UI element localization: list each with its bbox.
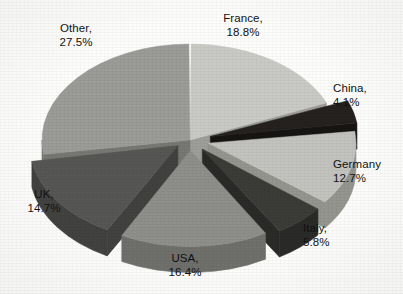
pie-label-name: Germany: [333, 158, 381, 172]
pie-label-value: 16.4%: [125, 266, 245, 280]
pie-label-name: France,: [183, 12, 303, 26]
pie-label-other: Other,27.5%: [16, 22, 136, 49]
pie-chart: France,18.8%China,4.1%Germany12.7%Italy,…: [0, 0, 403, 294]
pie-label-uk: UK,14.7%: [0, 188, 104, 215]
pie-label-value: 14.7%: [0, 202, 104, 216]
pie-label-value: 12.7%: [333, 172, 381, 186]
pie-label-name: UK,: [0, 188, 104, 202]
pie-label-name: Other,: [16, 22, 136, 36]
pie-label-value: 4.1%: [333, 96, 367, 110]
pie-label-value: 5.8%: [303, 236, 330, 250]
pie-label-germany: Germany12.7%: [333, 158, 381, 185]
pie-label-value: 18.8%: [183, 26, 303, 40]
pie-label-usa: USA,16.4%: [125, 252, 245, 279]
pie-label-name: USA,: [125, 252, 245, 266]
pie-label-value: 27.5%: [16, 36, 136, 50]
pie-label-name: China,: [333, 82, 367, 96]
pie-label-italy: Italy,5.8%: [303, 222, 330, 249]
pie-label-china: China,4.1%: [333, 82, 367, 109]
pie-label-france: France,18.8%: [183, 12, 303, 39]
pie-label-name: Italy,: [303, 222, 330, 236]
